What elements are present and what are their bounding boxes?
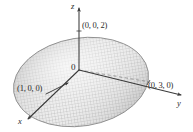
axis-label-z: z (71, 2, 74, 11)
ellipsoid-surface (7, 28, 155, 132)
axis-label-y: y (177, 99, 181, 108)
ellipsoid-body-highlight (7, 28, 155, 132)
y-intercept-label: (0, 3, 0) (148, 81, 173, 90)
z-intercept-label: (0, 0, 2) (82, 21, 107, 30)
x-intercept-label: (1, 0, 0) (17, 84, 42, 93)
origin-label: 0 (71, 63, 75, 72)
ellipsoid-figure: z y x (0, 0, 2) (0, 3, 0) (1, 0, 0) 0 (0, 0, 193, 132)
axis-label-x: x (18, 117, 22, 126)
